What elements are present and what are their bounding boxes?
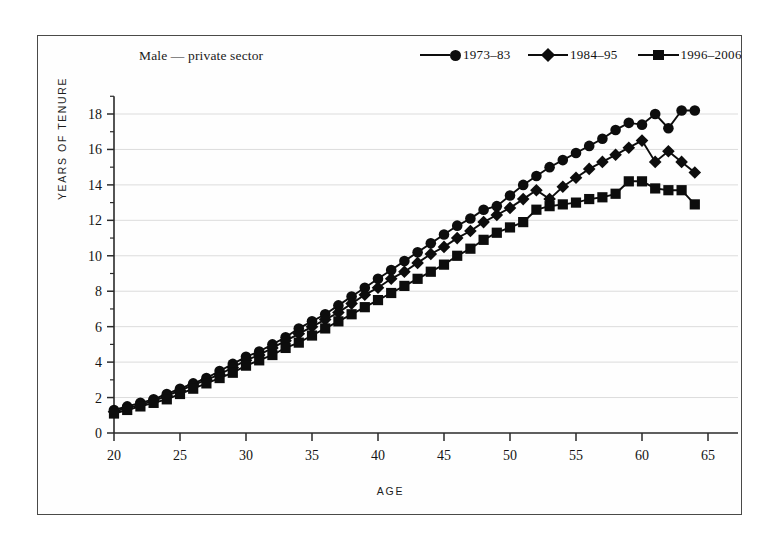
plot-area: 02468101214161820253035404550556065 — [38, 36, 743, 516]
svg-text:0: 0 — [95, 426, 102, 441]
svg-text:55: 55 — [569, 448, 583, 463]
svg-text:6: 6 — [95, 320, 102, 335]
svg-text:50: 50 — [503, 448, 517, 463]
svg-text:8: 8 — [95, 284, 102, 299]
svg-text:45: 45 — [437, 448, 451, 463]
svg-text:20: 20 — [107, 448, 121, 463]
svg-text:18: 18 — [88, 107, 102, 122]
svg-text:40: 40 — [371, 448, 385, 463]
svg-text:60: 60 — [635, 448, 649, 463]
svg-text:12: 12 — [88, 213, 102, 228]
svg-text:65: 65 — [701, 448, 715, 463]
svg-text:2: 2 — [95, 391, 102, 406]
svg-text:10: 10 — [88, 249, 102, 264]
svg-text:14: 14 — [88, 178, 102, 193]
svg-text:30: 30 — [239, 448, 253, 463]
figure-frame: Male — private sector 1973–83 1984–95 19… — [37, 35, 742, 515]
svg-text:25: 25 — [173, 448, 187, 463]
svg-text:16: 16 — [88, 142, 102, 157]
svg-text:4: 4 — [95, 355, 102, 370]
chart-svg: 02468101214161820253035404550556065 — [38, 36, 743, 516]
svg-text:35: 35 — [305, 448, 319, 463]
